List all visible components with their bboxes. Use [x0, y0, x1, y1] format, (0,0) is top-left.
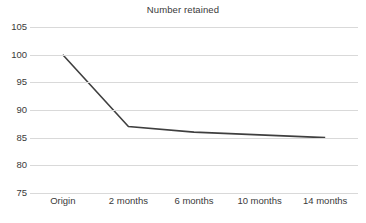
- chart-container: Number retained 1051009590858075 Origin2…: [0, 0, 366, 223]
- x-axis: Origin2 months6 months10 months14 months: [30, 196, 358, 218]
- chart-title: Number retained: [0, 4, 366, 15]
- y-tick-label: 80: [1, 160, 27, 170]
- y-tick-label: 85: [1, 133, 27, 143]
- gridline: [30, 27, 358, 28]
- gridline: [30, 110, 358, 111]
- x-tick-label: 14 months: [303, 196, 347, 206]
- y-tick-label: 105: [1, 22, 27, 32]
- gridline: [30, 138, 358, 139]
- x-tick-label: 2 months: [109, 196, 148, 206]
- y-tick-label: 75: [1, 188, 27, 198]
- y-tick-label: 100: [1, 50, 27, 60]
- x-tick-label: Origin: [50, 196, 75, 206]
- y-tick-label: 95: [1, 77, 27, 87]
- gridline: [30, 55, 358, 56]
- y-axis: 1051009590858075: [0, 27, 27, 193]
- gridline: [30, 165, 358, 166]
- gridline: [30, 193, 358, 194]
- series-polyline: [63, 55, 325, 138]
- x-tick-label: 6 months: [174, 196, 213, 206]
- plot-area: [30, 27, 358, 193]
- gridline: [30, 82, 358, 83]
- y-tick-label: 90: [1, 105, 27, 115]
- x-tick-label: 10 months: [237, 196, 281, 206]
